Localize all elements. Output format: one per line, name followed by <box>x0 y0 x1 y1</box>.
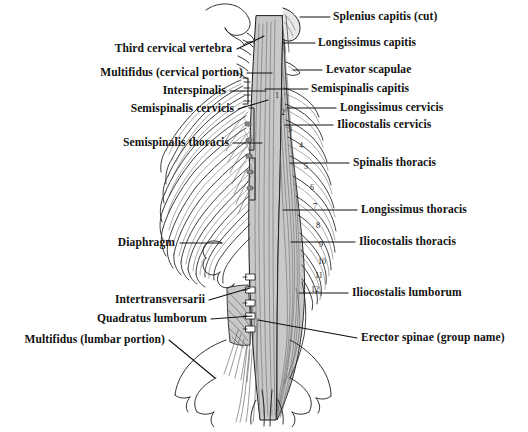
label-spinalis-thoracis: Spinalis thoracis <box>353 157 436 169</box>
label-iliocostalis-thoracis: Iliocostalis thoracis <box>359 236 456 248</box>
label-erector-spinae-group-name: Erector spinae (group name) <box>361 332 505 344</box>
label-quadratus-lumborum: Quadratus lumborum <box>97 313 207 325</box>
label-multifidus-cervical-portion: Multifidus (cervical portion) <box>100 67 243 79</box>
label-longissimus-capitis: Longissimus capitis <box>318 37 416 49</box>
rib-number-9: 9 <box>319 241 323 249</box>
left-pelvis <box>175 340 226 427</box>
label-multifidus-lumbar-portion: Multifidus (lumbar portion) <box>24 334 165 346</box>
label-iliocostalis-lumborum: Iliocostalis lumborum <box>352 287 462 299</box>
rib-number-2: 2 <box>281 109 285 117</box>
label-semispinalis-capitis: Semispinalis capitis <box>311 83 409 95</box>
erector-spinae-mass <box>236 16 305 422</box>
rib-number-8: 8 <box>316 222 320 230</box>
label-semispinalis-cervicis: Semispinalis cervicis <box>131 103 234 115</box>
anatomy-illustration <box>0 0 528 432</box>
rib-number-5: 5 <box>304 163 308 171</box>
lumbar-region <box>224 274 255 382</box>
rib-number-10: 10 <box>318 258 326 266</box>
rib-number-11: 11 <box>315 272 323 280</box>
label-splenius-capitis-cut: Splenius capitis (cut) <box>333 11 437 23</box>
rib-number-7: 7 <box>313 203 317 211</box>
rib-number-12: 12 <box>311 286 319 294</box>
rib-number-1: 1 <box>275 92 279 100</box>
label-longissimus-cervicis: Longissimus cervicis <box>340 102 443 114</box>
label-longissimus-thoracis: Longissimus thoracis <box>361 204 467 216</box>
rib-number-4: 4 <box>299 142 303 150</box>
rib-number-3: 3 <box>288 126 292 134</box>
anatomy-figure: Third cervical vertebraMultifidus (cervi… <box>0 0 528 432</box>
label-intertransversarii: Intertransversarii <box>115 294 205 306</box>
label-interspinalis: Interspinalis <box>163 85 226 97</box>
label-levator-scapulae: Levator scapulae <box>326 64 411 76</box>
label-diaphragm: Diaphragm <box>118 237 175 249</box>
label-third-cervical-vertebra: Third cervical vertebra <box>115 43 232 55</box>
label-semispinalis-thoracis: Semispinalis thoracis <box>123 137 229 149</box>
rib-number-6: 6 <box>310 184 314 192</box>
label-iliocostalis-cervicis: Iliocostalis cervicis <box>337 119 431 131</box>
